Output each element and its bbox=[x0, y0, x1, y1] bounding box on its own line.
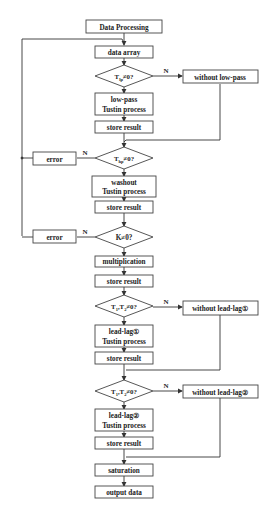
error-label-1: error bbox=[46, 156, 63, 164]
saturation-label: saturation bbox=[108, 467, 140, 475]
edge-label-no-4: N bbox=[163, 298, 168, 306]
store-result-label-5: store result bbox=[107, 440, 142, 448]
edge-label-no-5: N bbox=[163, 382, 168, 390]
lowpass-label-2: Tustin process bbox=[102, 106, 146, 114]
store-result-label-2: store result bbox=[107, 204, 142, 212]
leadlag2-label-2: Tustin process bbox=[102, 422, 146, 430]
edge-label-no-1: N bbox=[163, 67, 168, 75]
decision-gain-label: K≠0? bbox=[116, 234, 133, 242]
store-result-label-3: store result bbox=[107, 278, 142, 286]
washout-label-2: Tustin process bbox=[102, 188, 146, 196]
without-lowpass-label: without low-pass bbox=[194, 74, 246, 82]
store-result-label-4: store result bbox=[107, 355, 142, 363]
edge-label-no-2: N bbox=[82, 149, 87, 157]
washout-label-1: washout bbox=[111, 179, 137, 187]
leadlag1-label-1: lead-lag① bbox=[109, 328, 139, 336]
edge-label-no-3: N bbox=[82, 228, 87, 236]
without-leadlag1-label: without lead-lag① bbox=[192, 305, 248, 313]
leadlag2-label-1: lead-lag② bbox=[109, 412, 139, 420]
output-data-label: output data bbox=[106, 489, 142, 497]
multiplication-label: multiplication bbox=[102, 258, 145, 266]
leadlag1-label-2: Tustin process bbox=[102, 338, 146, 346]
data-array-label: data array bbox=[108, 49, 141, 57]
lowpass-label-1: low-pass bbox=[111, 96, 138, 104]
store-result-label-1: store result bbox=[107, 124, 142, 132]
flowchart: Data Processing data array Tlp≠0? withou… bbox=[0, 0, 269, 519]
start-label: Data Processing bbox=[99, 24, 149, 32]
error-label-2: error bbox=[46, 234, 63, 242]
without-leadlag2-label: without lead-lag② bbox=[192, 389, 248, 397]
